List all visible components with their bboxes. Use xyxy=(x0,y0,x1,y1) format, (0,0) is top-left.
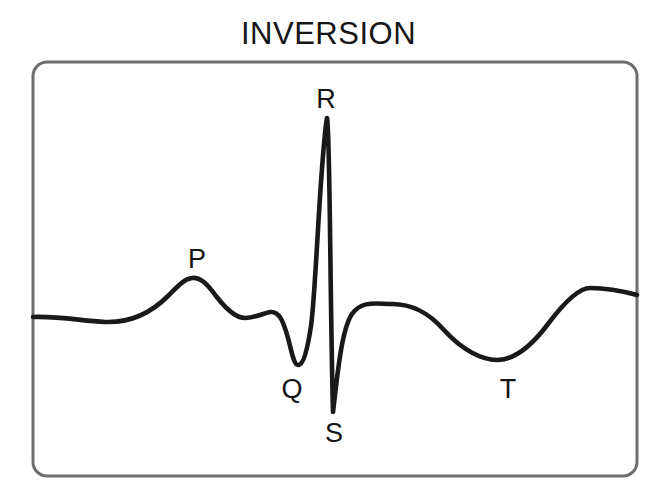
q-wave-label: Q xyxy=(281,374,302,404)
ecg-trace-line xyxy=(33,118,637,412)
plot-frame xyxy=(33,62,637,476)
s-wave-label: S xyxy=(325,418,343,448)
ecg-figure: INVERSION P Q R S T xyxy=(0,0,657,491)
r-wave-label: R xyxy=(316,84,336,114)
ecg-chart: P Q R S T xyxy=(0,0,657,491)
t-wave-label: T xyxy=(500,374,517,404)
p-wave-label: P xyxy=(188,244,206,274)
